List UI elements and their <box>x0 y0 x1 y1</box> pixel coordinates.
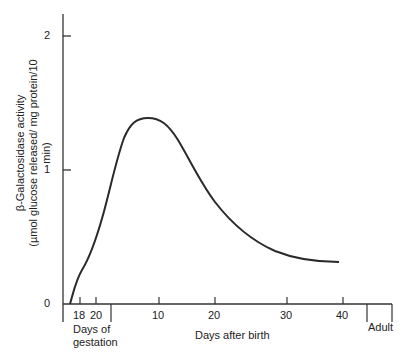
y-tick-label-0: 0 <box>44 297 50 309</box>
x-tick-label-30: 30 <box>280 309 292 321</box>
activity-curve <box>70 118 339 304</box>
x-tick-label-18: 18 <box>73 309 85 321</box>
x-tick-label-20b: 20 <box>208 309 220 321</box>
x-label-gestation: Days of gestation <box>73 323 118 349</box>
x-label-gestation-line2: gestation <box>73 336 118 349</box>
x-label-adult: Adult <box>368 321 393 333</box>
x-tick-label-10: 10 <box>152 309 164 321</box>
x-label-gestation-line1: Days of <box>73 323 118 336</box>
y-axis-label: β-Galactosidase activity (µmol glucose r… <box>14 48 53 258</box>
y-axis-label-line1: β-Galactosidase activity <box>14 48 27 258</box>
x-tick-label-40: 40 <box>336 309 348 321</box>
y-tick-label-2: 2 <box>44 29 50 41</box>
y-axis-label-line2: (µmol glucose released/ mg protein/10 mi… <box>27 48 53 258</box>
x-tick-label-20: 20 <box>90 309 102 321</box>
x-label-after-birth: Days after birth <box>195 329 270 341</box>
